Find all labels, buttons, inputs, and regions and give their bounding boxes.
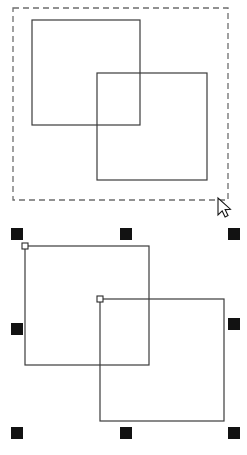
handle-bottom-right[interactable]	[228, 427, 240, 439]
handle-selection-panel	[0, 228, 247, 455]
handle-top-left[interactable]	[11, 228, 23, 240]
selection-handles	[11, 228, 240, 439]
handle-middle-right[interactable]	[228, 318, 240, 330]
handle-top-center[interactable]	[120, 228, 132, 240]
handle-bottom-left[interactable]	[11, 427, 23, 439]
handle-bottom-center[interactable]	[120, 427, 132, 439]
marquee-panel-graphic	[0, 0, 247, 228]
marquee-rectangle[interactable]	[13, 8, 228, 200]
selection-panel-graphic	[0, 228, 247, 455]
marquee-selection-panel	[0, 0, 247, 228]
illustration-canvas	[0, 0, 247, 455]
handle-top-right[interactable]	[228, 228, 240, 240]
node-marker-rectangle-a[interactable]	[22, 243, 28, 249]
node-markers	[22, 243, 103, 302]
arrow-cursor	[218, 198, 230, 217]
node-marker-rectangle-b[interactable]	[97, 296, 103, 302]
rectangle-b-top[interactable]	[97, 73, 207, 180]
handle-middle-left[interactable]	[11, 323, 23, 335]
rectangle-b-bottom[interactable]	[100, 299, 224, 421]
rectangle-a-bottom[interactable]	[25, 246, 149, 365]
